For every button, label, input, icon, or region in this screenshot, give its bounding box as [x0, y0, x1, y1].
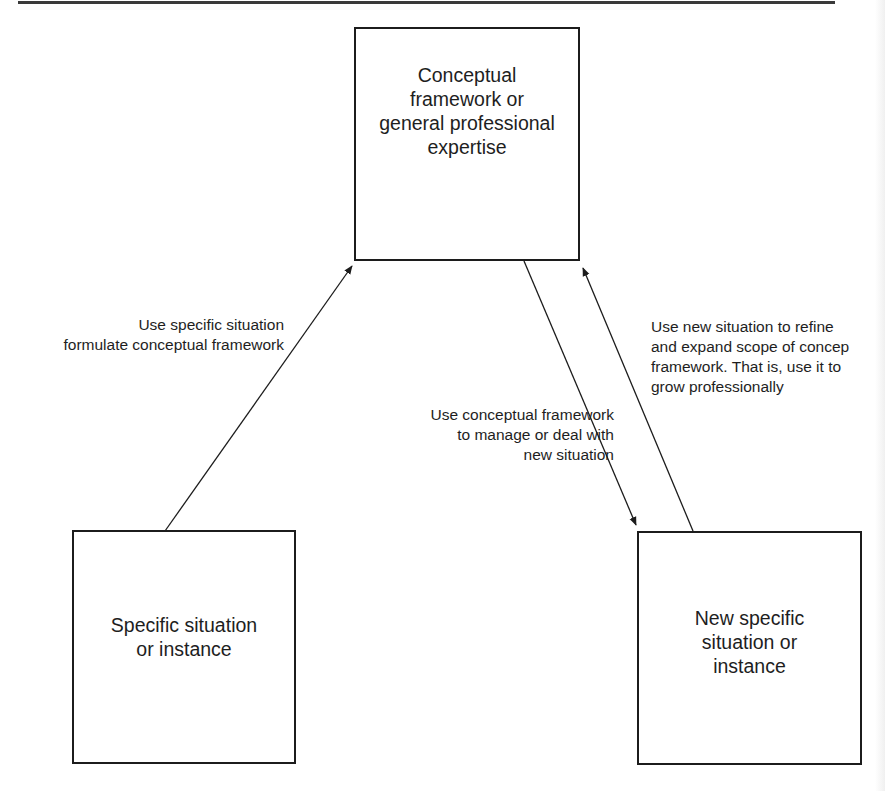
arrow-new-to-framework	[583, 268, 693, 531]
node-conceptual-framework: Conceptual framework or general professi…	[354, 27, 580, 261]
edge-label-line: and expand scope of concep	[651, 337, 849, 357]
edge-label-line: Use conceptual framework	[431, 405, 615, 425]
node-framework-line: framework or	[379, 87, 555, 111]
edge-label-line: formulate conceptual framework	[63, 335, 284, 355]
node-specific-line: or instance	[111, 637, 257, 661]
edge-label-line: new situation	[431, 445, 615, 465]
edge-label-line: Use specific situation	[63, 315, 284, 335]
node-specific-line: Specific situation	[111, 613, 257, 637]
node-new-line: New specific	[695, 606, 804, 630]
page-edge-shadow	[875, 0, 885, 791]
edge-label-line: grow professionally	[651, 377, 849, 397]
node-framework-line: general professional	[379, 111, 555, 135]
edge-label-line: framework. That is, use it to	[651, 357, 849, 377]
node-new-line: instance	[695, 654, 804, 678]
node-new-specific-situation: New specific situation or instance	[637, 531, 862, 765]
node-framework-line: expertise	[379, 135, 555, 159]
arrow-framework-to-new	[524, 261, 636, 525]
edge-label-refine: Use new situation to refine and expand s…	[651, 317, 849, 397]
arrow-specific-to-framework	[165, 266, 352, 531]
node-specific-situation: Specific situation or instance	[72, 530, 296, 764]
edge-label-formulate: Use specific situation formulate concept…	[63, 315, 284, 355]
edge-label-line: to manage or deal with	[431, 425, 615, 445]
node-new-line: situation or	[695, 630, 804, 654]
edge-label-line: Use new situation to refine	[651, 317, 849, 337]
edge-label-manage: Use conceptual framework to manage or de…	[431, 405, 615, 465]
node-framework-line: Conceptual	[379, 63, 555, 87]
